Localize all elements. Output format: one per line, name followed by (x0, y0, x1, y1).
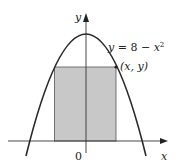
inscribed-rectangle (55, 67, 117, 141)
origin-label: 0 (75, 150, 82, 163)
x-axis-label: x (161, 150, 168, 163)
diagram-canvas: y y = 8 − x2 (x, y) 0 x (0, 0, 176, 168)
y-axis-arrow-icon (83, 13, 89, 22)
point-label: (x, y) (120, 60, 148, 73)
y-axis-label: y (74, 11, 82, 24)
curve-equation-label: y = 8 − x2 (107, 41, 164, 54)
point-marker (114, 65, 117, 68)
x-axis-arrow-icon (160, 138, 168, 144)
